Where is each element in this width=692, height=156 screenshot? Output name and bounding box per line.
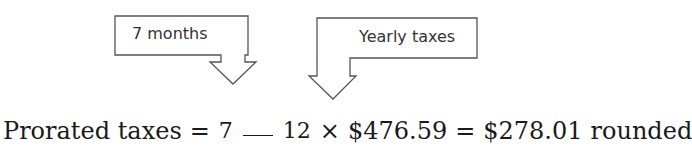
equation-lhs: Prorated taxes <box>3 117 182 145</box>
times-sign: × <box>320 117 340 145</box>
fraction-denominator: 12 <box>280 120 314 142</box>
result-amount: $278.01 <box>483 117 582 145</box>
fraction-bar <box>243 135 273 136</box>
yearly-amount: $476.59 <box>348 117 447 145</box>
proration-equation: Prorated taxes = 7 12 × $476.59 = $278.0… <box>3 106 692 156</box>
fraction-numerator: 7 <box>216 120 236 142</box>
callout-7-months-label: 7 months <box>132 24 208 43</box>
fraction: 7 12 <box>216 120 314 142</box>
equals-sign: = <box>190 117 210 145</box>
result-suffix: rounded <box>591 117 692 145</box>
equals-sign-2: = <box>455 117 475 145</box>
callout-yearly-taxes-label: Yearly taxes <box>359 27 455 46</box>
